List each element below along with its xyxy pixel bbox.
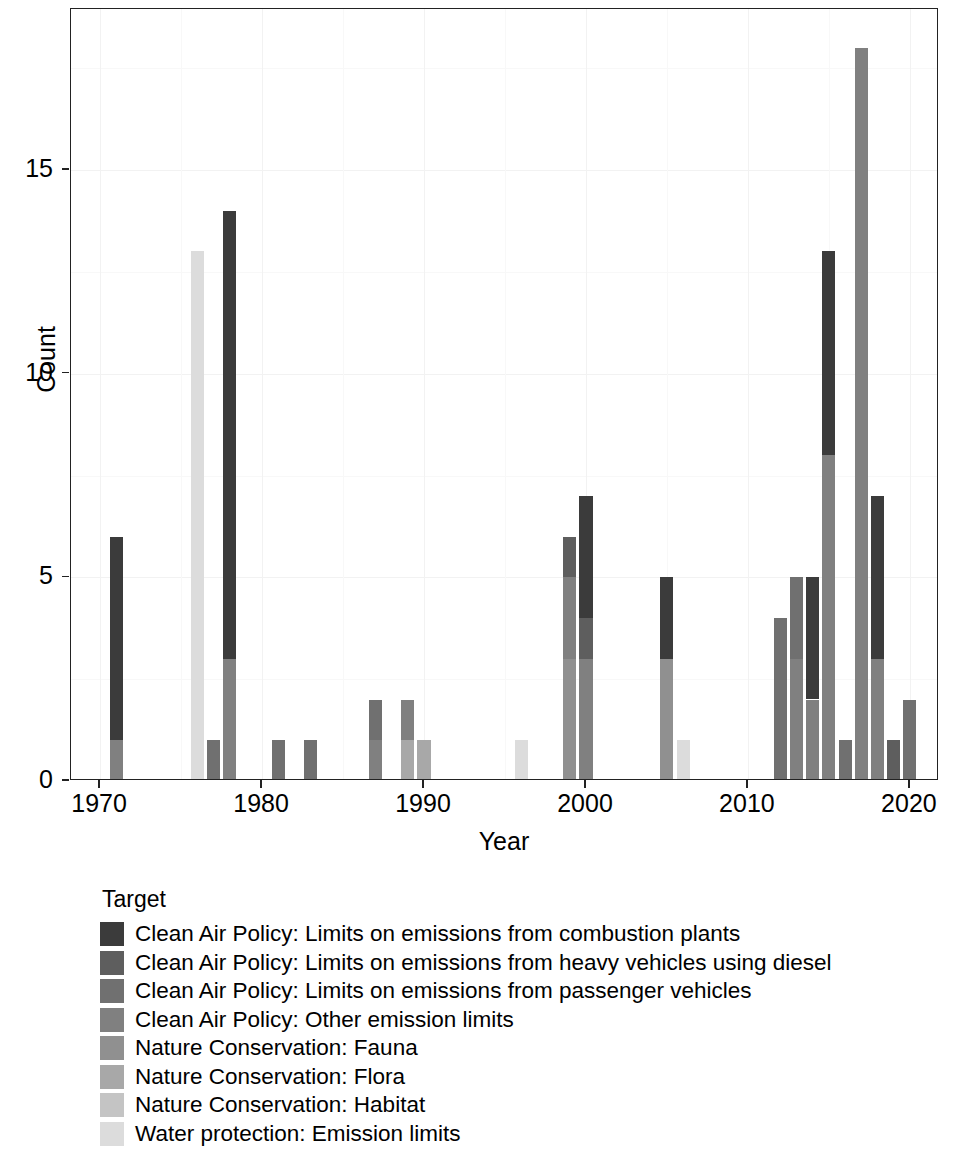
bar-segment (806, 577, 819, 699)
bar-segment (579, 618, 592, 659)
x-tick-mark (260, 780, 262, 788)
legend-color-swatch (100, 1065, 124, 1089)
legend-item-label: Nature Conservation: Flora (135, 1065, 405, 1089)
y-tick-label: 15 (0, 156, 53, 181)
x-axis-title: Year (70, 827, 938, 856)
legend-item: Nature Conservation: Habitat (100, 1091, 940, 1120)
y-tick-mark (62, 168, 69, 170)
bar-segment (369, 740, 382, 780)
bar-segment (515, 740, 528, 780)
bar-chart-figure: Count 051015 197019801990200020102020 Ye… (0, 0, 955, 1151)
gridline-vertical (100, 9, 101, 779)
x-tick-mark (98, 780, 100, 788)
legend-color-swatch (100, 1093, 124, 1117)
bar-segment (660, 577, 673, 659)
bar-segment (790, 659, 803, 780)
bar-segment (401, 700, 414, 741)
gridline-vertical (910, 9, 911, 779)
bar-segment (369, 700, 382, 741)
legend-item-label: Clean Air Policy: Limits on emissions fr… (135, 951, 832, 975)
bar-segment (887, 740, 900, 780)
y-tick-label: 0 (0, 767, 53, 792)
legend-color-swatch (100, 1122, 124, 1146)
legend-item-label: Nature Conservation: Fauna (135, 1036, 418, 1060)
legend-item: Clean Air Policy: Limits on emissions fr… (100, 949, 940, 978)
y-tick-mark (62, 576, 69, 578)
bar-segment (110, 537, 123, 741)
bar-segment (871, 659, 884, 780)
legend-item: Clean Air Policy: Limits on emissions fr… (100, 920, 940, 949)
legend-item: Clean Air Policy: Other emission limits (100, 1006, 940, 1035)
y-tick-label: 5 (0, 563, 53, 588)
x-tick-mark (422, 780, 424, 788)
legend-item-label: Clean Air Policy: Other emission limits (135, 1008, 514, 1032)
gridline-vertical (262, 9, 263, 779)
bar-segment (110, 740, 123, 780)
gridline-vertical-minor (181, 9, 182, 779)
gridline-vertical-minor (343, 9, 344, 779)
legend-entries: Clean Air Policy: Limits on emissions fr… (100, 920, 940, 1148)
plot-area (70, 8, 938, 780)
x-tick-label: 2020 (859, 789, 955, 817)
bar-segment (191, 251, 204, 780)
bar-segment (563, 537, 576, 578)
legend-item: Nature Conservation: Fauna (100, 1034, 940, 1063)
gridline-vertical-minor (505, 9, 506, 779)
bar-segment (855, 48, 868, 780)
legend-color-swatch (100, 1008, 124, 1032)
bar-segment (822, 251, 835, 455)
x-tick-label: 1990 (373, 789, 473, 817)
gridline-horizontal-minor (71, 68, 937, 69)
bar-segment (660, 659, 673, 780)
bar-segment (579, 496, 592, 618)
y-tick-label: 10 (0, 360, 53, 385)
legend: Target Clean Air Policy: Limits on emiss… (100, 884, 940, 1148)
legend-item-label: Nature Conservation: Habitat (135, 1093, 425, 1117)
x-tick-mark (746, 780, 748, 788)
y-tick-mark (62, 372, 69, 374)
y-tick-mark (62, 779, 69, 781)
bar-segment (806, 700, 819, 781)
bar-segment (563, 659, 576, 780)
gridline-horizontal (71, 170, 937, 171)
legend-color-swatch (100, 979, 124, 1003)
bar-segment (563, 577, 576, 659)
legend-item-label: Clean Air Policy: Limits on emissions fr… (135, 979, 752, 1003)
legend-color-swatch (100, 951, 124, 975)
x-tick-label: 2000 (535, 789, 635, 817)
bar-segment (304, 740, 317, 780)
legend-item: Clean Air Policy: Limits on emissions fr… (100, 977, 940, 1006)
bar-segment (401, 740, 414, 780)
gridline-vertical (748, 9, 749, 779)
bar-segment (207, 740, 220, 780)
bar-segment (839, 740, 852, 780)
x-tick-label: 1970 (49, 789, 149, 817)
bar-segment (903, 700, 916, 781)
bar-segment (677, 740, 690, 780)
legend-color-swatch (100, 922, 124, 946)
bar-segment (223, 659, 236, 780)
legend-title: Target (100, 884, 940, 914)
legend-item: Nature Conservation: Flora (100, 1063, 940, 1092)
x-tick-label: 1980 (211, 789, 311, 817)
x-tick-mark (584, 780, 586, 788)
bar-segment (272, 740, 285, 780)
x-tick-label: 2010 (697, 789, 797, 817)
legend-color-swatch (100, 1036, 124, 1060)
legend-item-label: Clean Air Policy: Limits on emissions fr… (135, 922, 740, 946)
bar-segment (417, 740, 430, 780)
legend-item: Water protection: Emission limits (100, 1120, 940, 1149)
bar-segment (579, 659, 592, 780)
legend-item-label: Water protection: Emission limits (135, 1122, 461, 1146)
gridline-vertical (424, 9, 425, 779)
bar-segment (223, 211, 236, 659)
bar-segment (774, 618, 787, 780)
bar-segment (871, 496, 884, 659)
x-tick-mark (908, 780, 910, 788)
bar-segment (790, 577, 803, 659)
bar-segment (822, 455, 835, 780)
